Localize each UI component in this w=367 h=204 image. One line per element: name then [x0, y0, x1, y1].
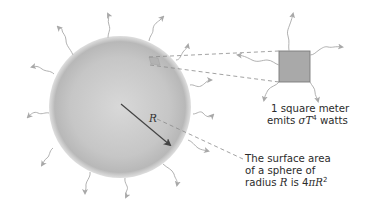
wavy-arrow-icon	[163, 164, 177, 185]
wavy-arrow-icon	[190, 80, 211, 87]
wavy-arrow-icon	[310, 47, 342, 55]
wavy-arrow-icon	[238, 55, 279, 65]
surface-caption-line2: of a sphere of	[245, 165, 331, 177]
wavy-arrow-icon	[287, 14, 293, 51]
square-caption-line2: emits σT4 watts	[267, 115, 349, 127]
wavy-arrow-icon	[32, 66, 54, 74]
radius-label: R	[149, 112, 157, 124]
surface-area-caption: The surface area of a sphere of radius R…	[245, 153, 331, 189]
wavy-arrow-icon	[176, 45, 188, 60]
wavy-arrow-icon	[193, 112, 213, 117]
square-caption: 1 square meter emits σT4 watts	[267, 103, 349, 127]
surface-caption-line1: The surface area	[245, 153, 331, 165]
wavy-arrow-icon	[58, 27, 73, 55]
wavy-arrow-icon	[310, 82, 318, 101]
wavy-arrow-icon	[42, 148, 53, 165]
square-caption-line1: 1 square meter	[267, 103, 349, 115]
wavy-arrow-icon	[188, 140, 208, 151]
wavy-arrow-icon	[28, 112, 49, 117]
surface-caption-line3: radius R is 4πR2	[245, 177, 331, 189]
wavy-arrow-icon	[264, 82, 279, 100]
wavy-arrow-icon	[85, 172, 90, 193]
sphere	[49, 36, 191, 178]
wavy-arrow-icon	[108, 14, 110, 38]
wavy-arrow-icon	[125, 178, 128, 197]
wavy-arrow-icon	[149, 17, 163, 41]
square-meter-patch	[279, 51, 310, 82]
